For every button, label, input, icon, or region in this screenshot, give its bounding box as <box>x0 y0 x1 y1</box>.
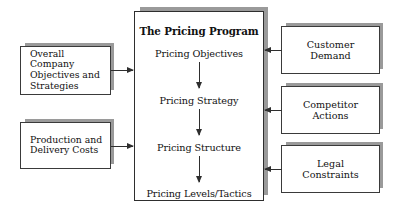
pricing-program-diagram: Overall Company Objectives and Strategie… <box>0 0 399 213</box>
arrow-left-box-0-to-center <box>111 70 133 71</box>
right-box-1-label: Competitor Actions <box>282 99 379 122</box>
arrow-right-box-2-to-center <box>265 169 282 170</box>
flow-arrow-0 <box>199 62 200 88</box>
arrow-right-box-0-to-center <box>265 50 282 51</box>
left-box-0-label: Overall Company Objectives and Strategie… <box>21 49 110 93</box>
right-box-2-label: Legal Constraints <box>282 158 379 181</box>
right-box-0-label: Customer Demand <box>282 39 379 62</box>
left-box-1-label: Production and Delivery Costs <box>21 135 110 157</box>
flow-step-pricing-objectives: Pricing Objectives <box>135 48 263 59</box>
arrow-right-box-1-to-center <box>265 110 282 111</box>
flow-step-pricing-structure: Pricing Structure <box>135 142 263 153</box>
flow-arrow-2 <box>199 156 200 182</box>
flow-step-pricing-levels-tactics: Pricing Levels/Tactics <box>135 188 263 199</box>
right-box-customer-demand: Customer Demand <box>281 26 380 74</box>
center-box-title: The Pricing Program <box>135 25 263 37</box>
left-box-production-delivery-costs: Production and Delivery Costs <box>20 122 111 169</box>
flow-arrow-1 <box>199 109 200 135</box>
left-box-overall-company-objectives: Overall Company Objectives and Strategie… <box>20 46 111 95</box>
center-box-pricing-program: The Pricing Program Pricing Objectives P… <box>134 11 264 201</box>
arrow-left-box-1-to-center <box>111 146 133 147</box>
flow-step-pricing-strategy: Pricing Strategy <box>135 95 263 106</box>
right-box-competitor-actions: Competitor Actions <box>281 86 380 134</box>
right-box-legal-constraints: Legal Constraints <box>281 145 380 193</box>
